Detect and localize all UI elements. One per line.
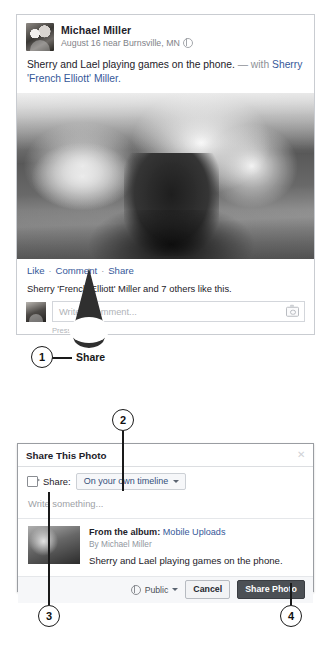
facebook-post-card: Michael Miller August 16 near Burnsville… <box>16 14 315 335</box>
callout-1-leader <box>52 357 72 359</box>
share-bubble-label: Share <box>76 351 105 363</box>
post-meta: August 16 near Burnsville, MN <box>61 38 193 48</box>
post-message-text: Sherry and Lael playing games on the pho… <box>27 59 235 70</box>
comment-button[interactable]: Comment <box>56 265 98 276</box>
callout-1: 1 <box>31 346 53 368</box>
likes-summary[interactable]: Sherry 'French Elliott' Miller and 7 oth… <box>17 281 314 301</box>
dialog-title-bar: Share This Photo ✕ <box>18 444 313 467</box>
attachment-byline: By Michael Miller <box>89 539 303 550</box>
attachment-thumbnail[interactable] <box>28 526 80 564</box>
share-button[interactable]: Share <box>108 265 134 276</box>
post-timestamp-location[interactable]: August 16 near Burnsville, MN <box>61 38 180 48</box>
callout-3: 3 <box>38 605 60 627</box>
chevron-down-icon <box>173 480 179 483</box>
privacy-value: Public <box>145 585 169 595</box>
globe-icon <box>183 38 193 48</box>
comment-placeholder: Write a comment... <box>59 307 137 317</box>
callout-2: 2 <box>112 409 134 431</box>
callout-4-leader <box>290 583 292 605</box>
post-author-name[interactable]: Michael Miller <box>61 24 193 36</box>
callout-2-leader <box>122 431 124 491</box>
callout-3-leader <box>48 492 50 605</box>
photo-highlight <box>32 143 133 209</box>
close-icon[interactable]: ✕ <box>297 450 305 460</box>
share-label: Share: <box>43 476 71 487</box>
camera-icon[interactable] <box>286 307 299 318</box>
composer-avatar <box>26 302 46 322</box>
attachment-preview: From the album: Mobile Uploads By Michae… <box>18 519 313 576</box>
attachment-album-line: From the album: Mobile Uploads <box>89 527 303 539</box>
attachment-album-prefix: From the album: <box>89 527 160 537</box>
audience-dropdown-value: On your own timeline <box>84 476 169 486</box>
share-photo-button[interactable]: Share Photo <box>237 580 305 599</box>
callout-4: 4 <box>280 605 302 627</box>
action-separator-1: · <box>49 266 52 276</box>
cancel-button[interactable]: Cancel <box>185 580 230 599</box>
action-separator-2: · <box>101 266 104 276</box>
audience-dropdown[interactable]: On your own timeline <box>76 473 187 490</box>
photo-subject <box>124 153 219 256</box>
globe-icon <box>131 585 141 595</box>
comment-composer: Write a comment... <box>17 301 314 324</box>
share-audience-row: Share: On your own timeline <box>18 467 313 494</box>
message-input[interactable]: Write something... <box>18 494 313 519</box>
post-header: Michael Miller August 16 near Burnsville… <box>17 15 314 55</box>
share-arrow-icon <box>27 476 38 487</box>
dialog-title: Share This Photo <box>26 450 107 461</box>
post-photo[interactable] <box>17 93 314 259</box>
avatar[interactable] <box>26 23 54 51</box>
comment-input[interactable]: Write a comment... <box>52 301 305 322</box>
post-action-bar: Like · Comment · Share <box>17 259 314 281</box>
privacy-selector[interactable]: Public <box>131 585 179 595</box>
post-message: Sherry and Lael playing games on the pho… <box>17 55 314 93</box>
chevron-down-icon <box>172 588 178 591</box>
share-this-photo-dialog: Share This Photo ✕ Share: On your own ti… <box>17 443 314 592</box>
dialog-footer: Public Cancel Share Photo <box>18 576 313 603</box>
composer-hint: Press Enter... <box>17 324 314 335</box>
attachment-album-name[interactable]: Mobile Uploads <box>163 527 226 537</box>
post-with-label: — with <box>238 59 269 70</box>
attachment-caption: Sherry and Lael playing games on the pho… <box>89 555 303 567</box>
like-button[interactable]: Like <box>27 265 45 276</box>
